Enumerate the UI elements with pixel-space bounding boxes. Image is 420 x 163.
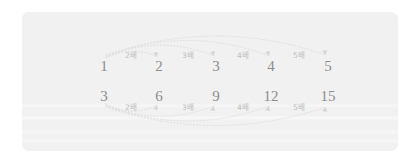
bottom-multiplier-4x: 4배 bbox=[226, 103, 260, 113]
bottom-number-row: 3 6 9 12 15 bbox=[0, 86, 420, 108]
top-number-2: 2 bbox=[144, 56, 174, 76]
top-multiplier-5x: 5배 bbox=[282, 51, 316, 61]
bottom-number-6: 6 bbox=[144, 86, 174, 106]
top-multiplier-2x: 2배 bbox=[114, 51, 148, 61]
bottom-multiplier-3x: 3배 bbox=[171, 103, 205, 113]
diagram-panel bbox=[22, 12, 398, 151]
diagram-canvas: 1 2 3 4 5 2배 3배 4배 5배 3 6 9 12 15 2배 3배 … bbox=[0, 0, 420, 163]
top-multiplier-4x: 4배 bbox=[226, 51, 260, 61]
top-multiplier-3x: 3배 bbox=[171, 51, 205, 61]
bottom-multiplier-5x: 5배 bbox=[282, 103, 316, 113]
top-number-row: 1 2 3 4 5 bbox=[0, 56, 420, 78]
top-number-5: 5 bbox=[313, 56, 343, 76]
bottom-number-15: 15 bbox=[313, 86, 343, 106]
panel-texture bbox=[22, 12, 398, 151]
bottom-multiplier-2x: 2배 bbox=[114, 103, 148, 113]
